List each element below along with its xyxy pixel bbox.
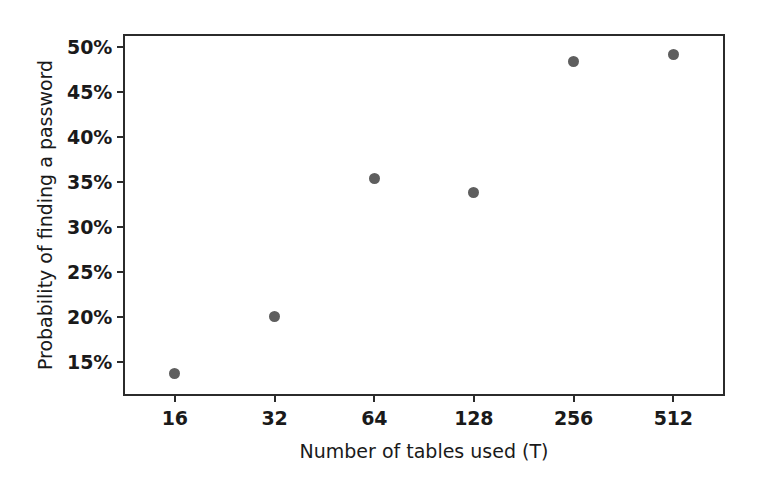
y-axis-tick-label: 35% <box>67 171 112 193</box>
x-axis-tick-label: 256 <box>554 407 593 429</box>
y-axis-tick <box>117 226 125 228</box>
y-axis-tick <box>117 181 125 183</box>
data-point <box>369 173 380 184</box>
x-axis-tick-label: 64 <box>361 407 387 429</box>
y-axis-tick-label: 40% <box>67 126 112 148</box>
data-point <box>568 56 579 67</box>
y-axis-title: Probability of finding a password <box>30 34 60 396</box>
data-point <box>668 49 679 60</box>
x-axis-tick-label: 512 <box>654 407 693 429</box>
x-axis-tick-label: 32 <box>261 407 287 429</box>
x-axis-title: Number of tables used (T) <box>123 440 725 462</box>
y-axis-tick <box>117 136 125 138</box>
y-axis-tick-label: 30% <box>67 216 112 238</box>
y-axis-tick-label: 25% <box>67 261 112 283</box>
plot-area: 50%45%40%35%30%25%20%15%163264128256512 <box>125 36 723 394</box>
y-axis-tick <box>117 91 125 93</box>
y-axis-tick-label: 45% <box>67 81 112 103</box>
scatter-plot-figure: 50%45%40%35%30%25%20%15%163264128256512 … <box>0 0 763 477</box>
x-axis-tick-label: 16 <box>162 407 188 429</box>
plot-frame: 50%45%40%35%30%25%20%15%163264128256512 <box>123 34 725 396</box>
x-axis-tick <box>174 394 176 402</box>
data-point <box>169 368 180 379</box>
x-axis-tick <box>473 394 475 402</box>
x-axis-tick <box>373 394 375 402</box>
y-axis-tick <box>117 316 125 318</box>
x-axis-tick <box>573 394 575 402</box>
data-point <box>468 187 479 198</box>
data-point <box>269 311 280 322</box>
y-axis-tick-label: 15% <box>67 351 112 373</box>
x-axis-tick <box>274 394 276 402</box>
y-axis-tick <box>117 46 125 48</box>
x-axis-tick-label: 128 <box>454 407 493 429</box>
y-axis-tick-label: 50% <box>67 36 112 58</box>
x-axis-tick <box>672 394 674 402</box>
y-axis-tick-label: 20% <box>67 306 112 328</box>
y-axis-tick <box>117 271 125 273</box>
y-axis-tick <box>117 361 125 363</box>
